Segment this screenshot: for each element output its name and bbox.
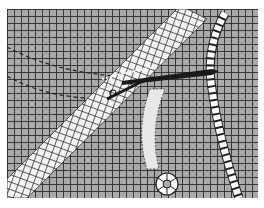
net-drawing — [7, 9, 258, 198]
rope-knot — [156, 173, 178, 195]
net-illustration — [7, 9, 258, 198]
